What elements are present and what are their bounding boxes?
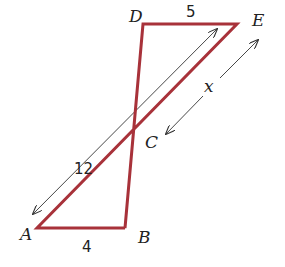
geometry-diagram: D E A B C 5 4 12 x [0, 0, 285, 267]
label-point-a: A [18, 224, 32, 244]
dimension-arrow-ce-lower [166, 96, 203, 134]
label-point-e: E [251, 10, 265, 30]
dimension-arrow-ce-upper [220, 40, 258, 78]
label-point-d: D [128, 6, 143, 26]
measure-ab: 4 [82, 238, 92, 256]
measure-de: 5 [186, 3, 196, 21]
diagram-canvas: D E A B C 5 4 12 x [0, 0, 285, 267]
dimension-arrow-ae [33, 29, 217, 214]
segment-ab-ae [37, 24, 237, 228]
measure-ae: 12 [74, 160, 93, 178]
label-point-b: B [137, 227, 151, 247]
measure-ce: x [204, 76, 214, 96]
label-point-c: C [145, 132, 158, 152]
